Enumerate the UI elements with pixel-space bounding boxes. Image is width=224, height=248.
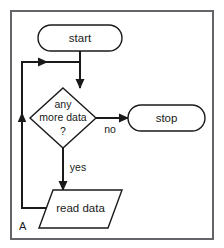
flowchart-figure: start any more data ? stop read data no … — [0, 0, 224, 248]
node-decision-label-line1: any — [55, 98, 73, 110]
figure-corner-label: A — [19, 220, 27, 232]
edge-label-yes: yes — [70, 161, 86, 173]
node-start-label: start — [69, 32, 92, 44]
edge-label-no: no — [104, 123, 116, 135]
flowchart-canvas: start any more data ? stop read data no … — [0, 0, 224, 248]
node-stop-label: stop — [156, 112, 178, 124]
node-read-data-label: read data — [56, 202, 105, 214]
node-decision-label-line2: more data — [39, 111, 86, 123]
node-decision-label-line3: ? — [60, 125, 66, 137]
